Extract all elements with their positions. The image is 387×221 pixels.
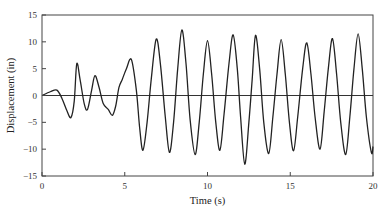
x-tick-label: 0 xyxy=(40,181,45,191)
y-tick-label: 0 xyxy=(33,91,38,101)
y-tick-label: −10 xyxy=(23,144,38,154)
series-line-displacement xyxy=(42,30,373,164)
y-axis-ticks: 151050−5−10−15 xyxy=(23,10,46,181)
displacement-time-chart: 05101520 151050−5−10−15 Time (s) Displac… xyxy=(0,0,387,221)
x-tick-label: 15 xyxy=(286,181,296,191)
y-tick-label: 5 xyxy=(33,64,38,74)
y-tick-label: 15 xyxy=(28,10,38,20)
x-tick-label: 10 xyxy=(203,181,213,191)
y-axis-label: Displacement (in) xyxy=(5,57,17,133)
x-tick-label: 5 xyxy=(123,181,128,191)
y-tick-label: −15 xyxy=(23,171,38,181)
x-axis-ticks: 05101520 xyxy=(40,172,378,191)
x-axis-label: Time (s) xyxy=(190,195,226,207)
x-tick-label: 20 xyxy=(369,181,379,191)
y-tick-label: 10 xyxy=(28,37,38,47)
y-tick-label: −5 xyxy=(27,117,37,127)
